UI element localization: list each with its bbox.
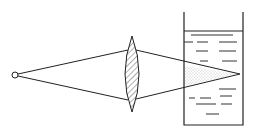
point-source-icon xyxy=(12,72,18,78)
incident-rays xyxy=(18,50,128,100)
convex-lens-icon xyxy=(125,36,139,112)
optics-diagram xyxy=(0,0,256,135)
